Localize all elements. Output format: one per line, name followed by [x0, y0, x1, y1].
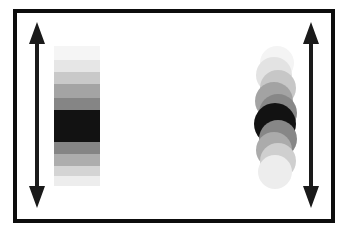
- band-5: [54, 98, 100, 110]
- left-vertical-double-arrow-icon: [26, 22, 48, 208]
- banded-rectangle: [54, 46, 100, 186]
- band-8: [54, 154, 100, 166]
- disc-10: [258, 155, 292, 189]
- figure-root: [0, 0, 348, 236]
- figure-canvas: [17, 13, 331, 219]
- band-1: [54, 46, 100, 60]
- band-10: [54, 176, 100, 186]
- band-9: [54, 166, 100, 176]
- circle-stack: [248, 44, 304, 190]
- band-2: [54, 60, 100, 72]
- band-6-core: [54, 110, 100, 142]
- band-3: [54, 72, 100, 84]
- band-7: [54, 142, 100, 154]
- band-4: [54, 84, 100, 98]
- right-vertical-double-arrow-icon: [300, 22, 322, 208]
